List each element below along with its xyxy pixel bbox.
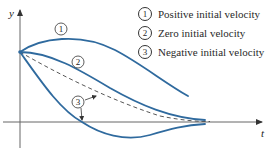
t-axis-label: t bbox=[261, 127, 265, 139]
legend-item-negative: 3 Negative initial velocity bbox=[138, 42, 264, 61]
curve-label-1: 1 bbox=[55, 23, 67, 35]
legend-number-3: 3 bbox=[138, 45, 152, 59]
pointer-arrow-curve bbox=[81, 108, 82, 120]
legend-number-1: 1 bbox=[138, 7, 152, 21]
legend: 1 Positive initial velocity 2 Zero initi… bbox=[138, 4, 264, 61]
curve-label-3: 3 bbox=[72, 96, 96, 120]
y-axis-label: y bbox=[8, 7, 14, 19]
legend-item-zero: 2 Zero initial velocity bbox=[138, 23, 264, 42]
svg-text:1: 1 bbox=[59, 24, 64, 34]
initial-point bbox=[18, 50, 22, 54]
curve-label-2: 2 bbox=[72, 56, 84, 68]
legend-number-2: 2 bbox=[138, 26, 152, 40]
dashed-curve bbox=[20, 52, 210, 122]
legend-item-positive: 1 Positive initial velocity bbox=[138, 4, 264, 23]
pointer-arrow-dashed bbox=[85, 96, 96, 100]
svg-text:3: 3 bbox=[76, 97, 81, 107]
curve-negative-velocity bbox=[20, 52, 205, 138]
svg-text:2: 2 bbox=[76, 57, 81, 67]
curve-zero-velocity bbox=[20, 52, 205, 120]
legend-text-2: Zero initial velocity bbox=[158, 27, 245, 39]
legend-text-1: Positive initial velocity bbox=[158, 8, 260, 20]
legend-text-3: Negative initial velocity bbox=[158, 46, 264, 58]
